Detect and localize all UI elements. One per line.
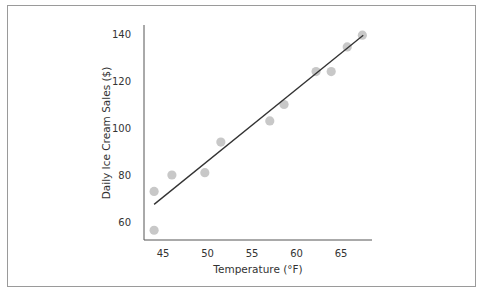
- data-point: [150, 226, 159, 235]
- x-tick-label: 55: [246, 248, 259, 259]
- data-point: [150, 187, 159, 196]
- data-points: [150, 31, 367, 235]
- x-tick-label: 60: [290, 248, 303, 259]
- x-axis-label: Temperature (°F): [212, 263, 302, 275]
- x-tick-label: 45: [157, 248, 170, 259]
- regression-line: [154, 35, 363, 204]
- trend-line: [154, 35, 363, 204]
- data-point: [200, 168, 209, 177]
- x-tick-label: 50: [201, 248, 214, 259]
- data-point: [265, 116, 274, 125]
- y-tick-label: 140: [112, 29, 131, 40]
- data-point: [311, 67, 320, 76]
- data-point: [167, 170, 176, 179]
- axes: [144, 25, 372, 240]
- y-axis-label: Daily Ice Cream Sales ($): [100, 67, 112, 200]
- x-tick-label: 65: [335, 248, 348, 259]
- y-tick-label: 80: [118, 170, 131, 181]
- scatter-chart: 45505560656080100120140 Temperature (°F)…: [0, 0, 481, 296]
- y-tick-label: 60: [118, 217, 131, 228]
- data-point: [327, 67, 336, 76]
- data-point: [216, 138, 225, 147]
- y-tick-label: 100: [112, 123, 131, 134]
- y-tick-label: 120: [112, 76, 131, 87]
